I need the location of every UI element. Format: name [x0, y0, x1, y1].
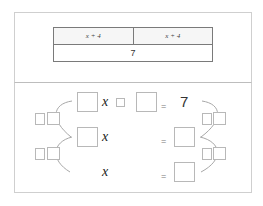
answer-box-coefficient-2[interactable]	[77, 127, 98, 147]
variable-x-row1: x	[102, 95, 108, 109]
answer-box-result-row3[interactable]	[174, 162, 195, 182]
answer-box-constant[interactable]	[136, 92, 157, 112]
equals-sign-row3: =	[161, 169, 166, 183]
arrow-arcs	[0, 0, 263, 206]
equals-sign-row2: =	[161, 134, 166, 148]
equals-sign-row1: =	[161, 99, 166, 113]
operator-box[interactable]	[116, 98, 125, 107]
left-step1-value-box[interactable]	[47, 112, 60, 125]
variable-x-row2: x	[102, 130, 108, 144]
right-step1-operator-box[interactable]	[202, 113, 212, 125]
right-step2-operator-box[interactable]	[202, 148, 212, 160]
right-step1-value-box[interactable]	[213, 112, 226, 125]
right-step2-value-box[interactable]	[213, 147, 226, 160]
answer-box-result-row2[interactable]	[174, 127, 195, 147]
left-step2-value-box[interactable]	[47, 147, 60, 160]
answer-box-coefficient-1[interactable]	[77, 92, 98, 112]
variable-x-row3: x	[102, 165, 108, 179]
result-value-row1: 7	[180, 95, 188, 109]
left-step1-operator-box[interactable]	[35, 113, 45, 125]
left-step2-operator-box[interactable]	[35, 148, 45, 160]
